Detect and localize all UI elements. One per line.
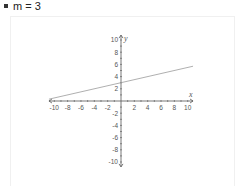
y-tick-label: 10 bbox=[111, 36, 119, 43]
x-tick-label: -2 bbox=[105, 104, 111, 111]
y-axis-label: y bbox=[123, 34, 128, 43]
y-tick-label: 4 bbox=[114, 73, 118, 80]
y-tick-label: -4 bbox=[112, 122, 118, 129]
y-tick-label: 8 bbox=[114, 49, 118, 56]
x-tick-label: -4 bbox=[91, 104, 97, 111]
x-tick-label: 6 bbox=[159, 104, 163, 111]
y-tick-label: -6 bbox=[112, 134, 118, 141]
x-tick-label: 4 bbox=[146, 104, 150, 111]
y-tick-label: -2 bbox=[112, 110, 118, 117]
x-tick-label: -6 bbox=[78, 104, 84, 111]
y-tick-label: 2 bbox=[114, 85, 118, 92]
y-tick-label: -10 bbox=[109, 158, 119, 165]
y-tick-label: -8 bbox=[112, 146, 118, 153]
x-tick-label: -10 bbox=[50, 104, 60, 111]
x-axis-label: x bbox=[188, 90, 193, 99]
line-plot: -10-8-6-4-2246810108642-2-4-6-8-10xy bbox=[0, 0, 248, 186]
y-tick-label: 6 bbox=[114, 61, 118, 68]
x-tick-label: 2 bbox=[133, 104, 137, 111]
x-tick-label: 8 bbox=[173, 104, 177, 111]
x-tick-label: -8 bbox=[65, 104, 71, 111]
x-tick-label: 10 bbox=[184, 104, 192, 111]
